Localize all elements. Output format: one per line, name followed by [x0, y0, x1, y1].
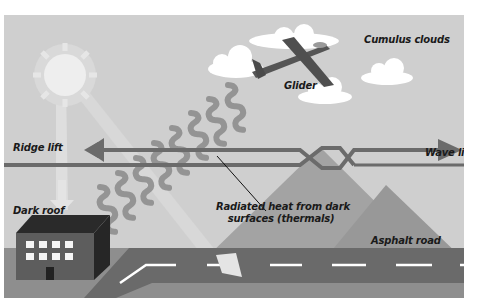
sun-icon — [33, 43, 97, 107]
glider-lift-diagram: Cumulus clouds Glider Ridge lift Wave li… — [4, 15, 464, 298]
label-wave-lift: Wave lift — [425, 147, 464, 158]
label-dark-roof: Dark roof — [13, 205, 64, 216]
diagram-illustration — [4, 15, 464, 298]
label-thermals-line2: surfaces (thermals) — [216, 213, 346, 225]
label-thermals: Radiated heat from dark surfaces (therma… — [216, 201, 346, 225]
label-asphalt-road: Asphalt road — [371, 235, 441, 246]
label-cumulus-clouds: Cumulus clouds — [364, 34, 450, 45]
label-thermals-line1: Radiated heat from dark — [216, 201, 346, 213]
label-ridge-lift: Ridge lift — [13, 142, 63, 153]
label-glider: Glider — [284, 80, 317, 91]
building-dark-roof — [16, 215, 110, 280]
